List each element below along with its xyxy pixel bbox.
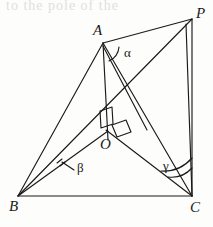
vertex-label-C: C — [190, 200, 200, 215]
beta-leader-line — [62, 162, 74, 170]
vertex-label-A: A — [93, 23, 102, 38]
vertex-label-P: P — [196, 6, 205, 21]
angle-label-beta: β — [77, 161, 84, 174]
edge-O-C — [106, 130, 192, 196]
alpha-arc — [109, 47, 119, 61]
vertex-label-O: O — [100, 137, 111, 152]
edge-A-P — [103, 19, 192, 43]
figure-canvas — [0, 0, 213, 227]
geometry-figure: to the pole of the — [0, 0, 213, 227]
gamma-arc-inner — [168, 168, 192, 177]
vertex-label-B: B — [9, 199, 18, 214]
edge-A-C — [103, 43, 192, 196]
right-angle-lower-mark — [112, 120, 131, 137]
edge-B-A — [18, 43, 103, 196]
angle-label-alpha: α — [124, 46, 131, 59]
beta-arc — [57, 159, 62, 163]
angle-label-gamma: γ — [163, 159, 169, 172]
